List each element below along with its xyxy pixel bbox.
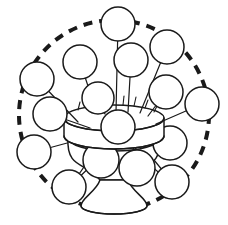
bloom-inner-left: [82, 82, 114, 114]
bloom-upper-left: [63, 45, 97, 79]
bloom-top-right: [150, 30, 184, 64]
center-bloom: [101, 110, 135, 144]
bloom-left-upper: [20, 62, 54, 96]
drawing-canvas: Flowers in a vase: [0, 0, 228, 225]
bloom-left-mid: [33, 97, 67, 131]
tick-5: [123, 96, 124, 105]
flower-vase-illustration: Flowers in a vase: [0, 0, 228, 225]
bloom-left-lower: [17, 135, 51, 169]
bloom-lower-left: [52, 170, 86, 204]
bloom-lower-right: [155, 165, 189, 199]
bloom-far-right: [185, 87, 219, 121]
bloom-right-upper: [149, 75, 183, 109]
bloom-lower-center: [119, 150, 155, 186]
bloom-top: [101, 7, 135, 41]
tick-6: [134, 97, 136, 106]
bloom-upper-right: [114, 43, 148, 77]
